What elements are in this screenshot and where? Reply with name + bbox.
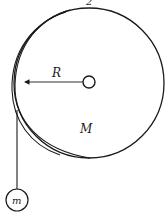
label-hanging-mass: m bbox=[12, 195, 21, 206]
label-radius: R bbox=[51, 66, 61, 80]
axle bbox=[83, 76, 95, 88]
label-disk-mass: M bbox=[79, 122, 93, 136]
rope-winding-2 bbox=[12, 12, 66, 155]
label-top: 2 bbox=[85, 0, 92, 7]
rope-winding-1 bbox=[15, 10, 90, 158]
pulley-diagram: 2 R M m bbox=[0, 0, 168, 218]
